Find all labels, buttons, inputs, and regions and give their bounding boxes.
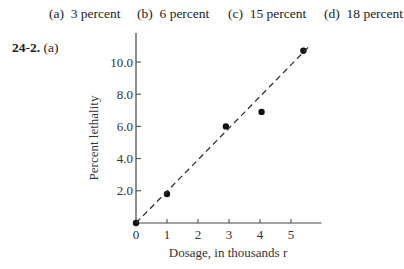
x-tick-label: 0 <box>133 227 140 242</box>
scatter-chart: 0123452.04.06.08.010.0 Dosage, in thousa… <box>0 0 404 269</box>
y-tick-label: 10.0 <box>110 55 133 70</box>
x-tick-label: 1 <box>164 227 171 242</box>
chart-ticks: 0123452.04.06.08.010.0 <box>110 55 294 243</box>
x-tick-label: 4 <box>257 227 264 242</box>
x-tick-label: 3 <box>226 227 233 242</box>
fit-line <box>136 48 308 223</box>
x-tick-label: 2 <box>195 227 202 242</box>
x-axis-label: Dosage, in thousands r <box>169 245 288 260</box>
data-point <box>258 109 264 115</box>
y-tick-label: 8.0 <box>117 87 133 102</box>
chart-series <box>133 48 308 227</box>
y-axis-label: Percent lethality <box>86 95 101 180</box>
y-tick-label: 6.0 <box>117 119 133 134</box>
y-tick-label: 2.0 <box>117 183 133 198</box>
y-tick-label: 4.0 <box>117 151 133 166</box>
x-tick-label: 5 <box>288 227 295 242</box>
